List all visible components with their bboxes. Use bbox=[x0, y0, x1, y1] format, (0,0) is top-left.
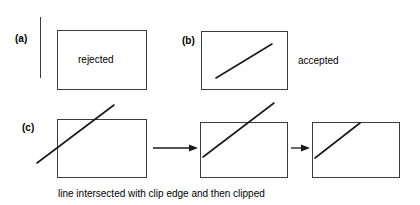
clip-window-b bbox=[201, 31, 288, 90]
panel-a-label: (a) bbox=[15, 33, 27, 44]
rejected-label: rejected bbox=[78, 54, 114, 65]
arrow-right-2 bbox=[291, 145, 310, 152]
clip-edge-line-a bbox=[40, 17, 41, 78]
panel-c-label: (c) bbox=[22, 122, 34, 133]
clipping-figure: (a) rejected (b) accepted (c) line inter… bbox=[0, 0, 420, 205]
accepted-label: accepted bbox=[298, 55, 339, 66]
arrow-right-1 bbox=[153, 145, 198, 152]
clip-window-c2 bbox=[200, 122, 288, 178]
clip-window-c3 bbox=[312, 122, 400, 178]
panel-b-label: (b) bbox=[182, 35, 195, 46]
figure-caption: line intersected with clip edge and then… bbox=[58, 188, 265, 199]
clip-window-c1 bbox=[57, 119, 147, 178]
